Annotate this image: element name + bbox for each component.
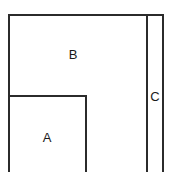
outer-top-border — [8, 14, 164, 16]
region-a-right-border — [85, 95, 87, 172]
region-c-label: C — [150, 90, 159, 103]
region-a-label: A — [43, 131, 52, 144]
outer-right-border — [162, 14, 164, 172]
region-b-label: B — [69, 48, 78, 61]
region-b-c-divider — [146, 14, 148, 172]
region-a-top-border — [8, 95, 87, 97]
outer-left-border — [8, 14, 10, 172]
